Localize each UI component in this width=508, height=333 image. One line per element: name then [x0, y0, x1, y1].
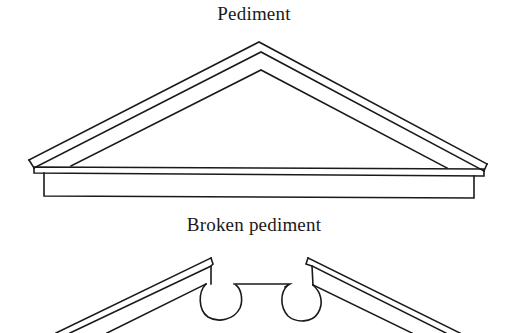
broken-pediment-figure [56, 258, 460, 333]
left-scroll [200, 284, 241, 320]
left-rake-end [211, 258, 213, 284]
right-rake-end [306, 258, 313, 285]
left-middle-rake [70, 266, 211, 333]
entablature [44, 173, 474, 198]
right-middle-rake [312, 266, 446, 333]
tympanum-outline [71, 70, 447, 168]
outer-raking-cornice [29, 42, 487, 164]
horizontal-cornice [34, 167, 484, 176]
pediment-figure [29, 42, 487, 198]
inner-raking-cornice [34, 52, 484, 171]
left-outer-rake [56, 258, 211, 333]
scroll-connector [234, 284, 290, 287]
right-outer-rake [308, 258, 460, 333]
pediment-drawing [0, 0, 508, 333]
broken-pediment-caption: Broken pediment [0, 214, 508, 236]
right-scroll [282, 285, 321, 321]
